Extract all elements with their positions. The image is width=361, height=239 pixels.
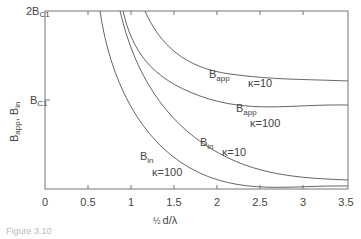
svg-text:1: 1 xyxy=(128,196,134,208)
curve-bapp-k10 xyxy=(145,11,348,81)
svg-text:2: 2 xyxy=(214,196,220,208)
curve-bin-k100 xyxy=(100,11,348,187)
label-bapp-2: Bapp xyxy=(236,102,257,117)
x-ticks xyxy=(88,11,303,189)
svg-text:3.5: 3.5 xyxy=(338,196,353,208)
svg-text:3: 3 xyxy=(300,196,306,208)
x-axis-label: ½d/λ xyxy=(153,214,178,226)
label-bapp-1: Bapp xyxy=(209,68,230,83)
curve-bapp-k100 xyxy=(123,11,348,107)
x-tick-labels: 0 0.5 1 1.5 2 2.5 3 3.5 xyxy=(42,196,354,208)
svg-text:0.5: 0.5 xyxy=(80,196,95,208)
label-k10-1: κ=10 xyxy=(248,77,272,89)
figure-caption: Figure 3.10 xyxy=(6,226,52,236)
y-tick-label-2bc1: 2BC1 xyxy=(26,5,50,19)
label-bin-1: Bin xyxy=(200,136,214,151)
label-k100-2: κ=100 xyxy=(152,166,182,178)
svg-text:2.5: 2.5 xyxy=(252,196,267,208)
label-k10-2: κ=10 xyxy=(222,146,246,158)
chart: 0 0.5 1 1.5 2 2.5 3 3.5 2BC1 BC1 Bapp, B… xyxy=(0,0,361,239)
label-bin-2: Bin xyxy=(140,150,154,165)
svg-text:0: 0 xyxy=(42,196,48,208)
plot-frame xyxy=(45,11,348,189)
y-axis-label: Bapp, Bin xyxy=(8,102,22,142)
svg-text:1.5: 1.5 xyxy=(166,196,181,208)
label-k100-1: κ=100 xyxy=(250,117,280,129)
